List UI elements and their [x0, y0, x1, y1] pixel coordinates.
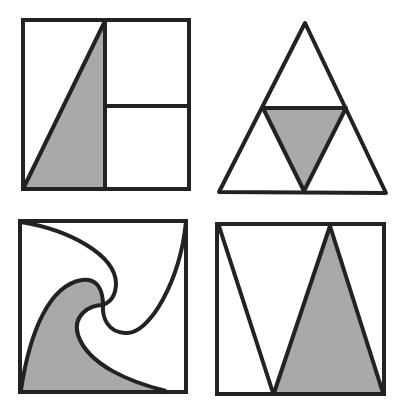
shaded-inner-triangle — [263, 108, 346, 191]
figure-square-divided-triangle — [23, 20, 189, 189]
shaded-swirl-segment — [21, 280, 166, 391]
left-diagonal — [219, 226, 273, 393]
figures-canvas — [0, 0, 405, 418]
shaded-tall-triangle — [274, 226, 383, 393]
figure-square-triangles — [217, 224, 384, 394]
figure-square-swirl — [20, 221, 186, 392]
figure-triangle-inner-inverted — [219, 23, 386, 193]
